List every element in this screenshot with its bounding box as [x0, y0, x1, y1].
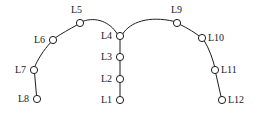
node-label-l3: L3 — [101, 52, 112, 62]
node-link-diagram: L1L2L3L4L5L6L7L8L9L10L11L12 — [0, 0, 262, 115]
edge-l9-l10 — [180, 25, 199, 37]
node-l1[interactable] — [116, 96, 123, 103]
node-l3[interactable] — [116, 53, 123, 60]
node-label-l1: L1 — [101, 95, 112, 105]
node-l2[interactable] — [116, 75, 123, 82]
edge-l4-l9 — [123, 19, 174, 34]
node-label-l6: L6 — [34, 35, 45, 45]
node-l11[interactable] — [211, 66, 218, 73]
edge-l11-l12 — [216, 74, 221, 97]
node-l10[interactable] — [198, 34, 205, 41]
nodes-group — [30, 19, 225, 103]
node-l6[interactable] — [49, 36, 56, 43]
node-label-l9: L9 — [171, 5, 182, 15]
diagram-canvas — [0, 0, 262, 115]
node-l9[interactable] — [173, 19, 180, 26]
node-l7[interactable] — [30, 66, 37, 73]
node-label-l10: L10 — [208, 33, 224, 43]
node-label-l2: L2 — [101, 74, 112, 84]
node-label-l4: L4 — [101, 31, 112, 41]
node-label-l12: L12 — [228, 95, 244, 105]
edge-l5-l6 — [56, 25, 78, 38]
node-label-l5: L5 — [71, 5, 82, 15]
edge-l6-l7 — [35, 43, 51, 67]
node-l4[interactable] — [116, 32, 123, 39]
node-l12[interactable] — [218, 96, 225, 103]
edge-l10-l11 — [204, 41, 214, 67]
edges-group — [35, 19, 221, 96]
node-l5[interactable] — [76, 19, 83, 26]
node-label-l8: L8 — [18, 94, 29, 104]
edge-l7-l8 — [35, 74, 37, 96]
node-l8[interactable] — [33, 95, 40, 102]
node-label-l11: L11 — [221, 65, 237, 75]
node-label-l7: L7 — [15, 65, 26, 75]
